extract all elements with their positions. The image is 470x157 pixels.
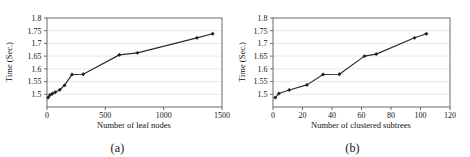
chart-b-x-axis-title: Number of clustered subtrees bbox=[311, 120, 411, 130]
chart-a-x-axis-ticks: 050010001500 bbox=[45, 107, 230, 120]
figure-two-line-charts: 1.51.551.61.651.71.751.8 050010001500 Ti… bbox=[0, 0, 470, 157]
chart-a-caption: (a) bbox=[0, 141, 235, 156]
y-tick-label: 1.8 bbox=[258, 14, 268, 23]
x-tick-label: 80 bbox=[387, 111, 395, 120]
chart-a-plot-area bbox=[46, 18, 222, 107]
y-tick-label: 1.6 bbox=[258, 65, 268, 74]
y-tick-label: 1.6 bbox=[32, 65, 42, 74]
chart-a-x-axis-title: Number of leaf nodes bbox=[97, 120, 171, 130]
chart-b-plot-background bbox=[273, 18, 450, 107]
x-tick-label: 0 bbox=[45, 111, 49, 120]
chart-panel-a: 1.51.551.61.651.71.751.8 050010001500 Ti… bbox=[0, 0, 235, 157]
x-tick-label: 20 bbox=[299, 111, 307, 120]
chart-a-plot-background bbox=[47, 18, 222, 107]
chart-a-y-axis-title: Time (Sec.) bbox=[4, 42, 14, 82]
y-tick-label: 1.55 bbox=[28, 77, 42, 86]
line-chart-leaf-nodes: 1.51.551.61.651.71.751.8 050010001500 Ti… bbox=[0, 0, 235, 157]
x-tick-label: 120 bbox=[444, 111, 456, 120]
y-tick-label: 1.55 bbox=[254, 77, 268, 86]
y-tick-label: 1.8 bbox=[32, 14, 42, 23]
chart-b-y-axis-ticks: 1.51.551.61.651.71.751.8 bbox=[254, 14, 274, 99]
line-chart-clustered-subtrees: 1.51.551.61.651.71.751.8 020406080100120… bbox=[235, 0, 470, 157]
x-tick-label: 1500 bbox=[214, 111, 230, 120]
x-tick-label: 0 bbox=[271, 111, 275, 120]
x-tick-label: 100 bbox=[415, 111, 427, 120]
chart-a-y-axis-ticks: 1.51.551.61.651.71.751.8 bbox=[28, 14, 48, 99]
chart-b-plot-area bbox=[273, 18, 450, 107]
y-tick-label: 1.65 bbox=[28, 52, 42, 61]
x-tick-label: 500 bbox=[99, 111, 111, 120]
y-tick-label: 1.5 bbox=[258, 90, 268, 99]
y-tick-label: 1.75 bbox=[28, 27, 42, 36]
y-tick-label: 1.75 bbox=[254, 27, 268, 36]
x-tick-label: 60 bbox=[358, 111, 366, 120]
chart-b-caption: (b) bbox=[235, 141, 470, 156]
y-tick-label: 1.65 bbox=[254, 52, 268, 61]
x-tick-label: 1000 bbox=[156, 111, 172, 120]
chart-b-y-axis-title: Time (Sec.) bbox=[237, 42, 247, 82]
chart-b-x-axis-ticks: 020406080100120 bbox=[271, 107, 456, 120]
x-tick-label: 40 bbox=[328, 111, 336, 120]
y-tick-label: 1.7 bbox=[258, 39, 268, 48]
y-tick-label: 1.5 bbox=[32, 90, 42, 99]
y-tick-label: 1.7 bbox=[32, 39, 42, 48]
chart-panel-b: 1.51.551.61.651.71.751.8 020406080100120… bbox=[235, 0, 470, 157]
